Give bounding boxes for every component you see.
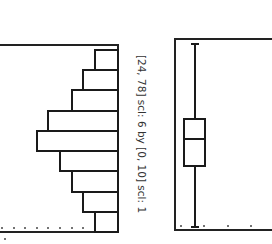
upper-whisker [194, 44, 196, 118]
tick-mark [71, 227, 73, 229]
min-cap [191, 226, 199, 228]
histogram-bar [71, 89, 119, 111]
tick-mark [1, 227, 3, 229]
histogram-bar [94, 49, 119, 71]
histogram-bar [36, 130, 119, 152]
histogram-bar [82, 191, 119, 213]
max-cap [191, 43, 199, 45]
box-q1-q3 [183, 118, 206, 168]
tick-mark [4, 238, 6, 240]
tick-mark [36, 227, 38, 229]
histogram-bar [47, 110, 119, 132]
histogram-bar [82, 69, 119, 91]
histogram-bar [71, 170, 119, 192]
median-line [183, 138, 206, 140]
histogram-bar [59, 150, 119, 172]
histogram-bar [94, 211, 119, 233]
tick-mark [59, 227, 61, 229]
lower-whisker [194, 167, 196, 227]
tick-mark [250, 225, 252, 227]
tick-mark [180, 225, 182, 227]
tick-mark [203, 225, 205, 227]
tick-mark [13, 227, 15, 229]
window-caption: [24, 78] scl: 6 by [0, 10] scl: 1 [136, 55, 148, 213]
tick-mark [227, 225, 229, 227]
